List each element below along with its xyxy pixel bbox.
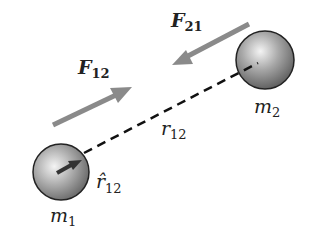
mass-m1-label: m1	[50, 204, 76, 229]
force-f21-label: F21	[170, 9, 203, 34]
diagram-canvas: F21 F12 m2 r12 r̂12 m1	[0, 0, 312, 240]
mass-m2	[236, 31, 294, 89]
mass-m2-label: m2	[254, 95, 280, 120]
unit-vector-label: r̂12	[96, 170, 122, 196]
force-f12-arrow-icon	[53, 87, 132, 125]
force-f12-label: F12	[77, 56, 110, 81]
distance-label: r12	[161, 117, 187, 142]
